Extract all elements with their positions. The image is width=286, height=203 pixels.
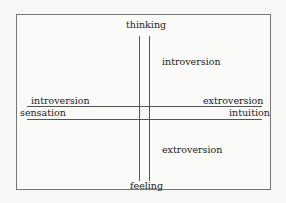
vertical-axis-line-right — [149, 36, 150, 181]
label-sensation: sensation — [20, 107, 66, 118]
label-extroversion-lower-right: extroversion — [162, 144, 222, 155]
label-intuition: intuition — [229, 107, 270, 118]
label-introversion-left: introversion — [31, 95, 90, 106]
horizontal-line-lower — [27, 119, 262, 120]
label-thinking: thinking — [126, 19, 166, 30]
label-feeling: feeling — [130, 180, 163, 191]
label-extroversion-right: extroversion — [203, 95, 263, 106]
label-introversion-upper-right: introversion — [162, 56, 221, 67]
vertical-axis-line-left — [139, 36, 140, 181]
